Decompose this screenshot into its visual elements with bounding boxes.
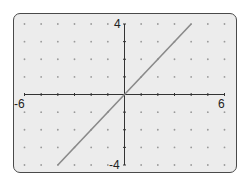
grid-dot (74, 58, 76, 60)
y-max-label: 4 (114, 18, 121, 30)
grid-dot (90, 76, 92, 78)
grid-dot (190, 129, 192, 131)
grid-dot (157, 129, 159, 131)
grid-dot (224, 164, 226, 166)
grid-dot (140, 129, 142, 131)
grid-dot (24, 164, 26, 166)
grid-dot (207, 23, 209, 25)
grid-dot (140, 23, 142, 25)
y-min-label: -4 (109, 159, 120, 171)
grid-dot (224, 111, 226, 113)
grid-dot (57, 111, 59, 113)
grid-dot (174, 58, 176, 60)
grid-dot (207, 58, 209, 60)
grid-dot (107, 23, 109, 25)
grid-dot (174, 23, 176, 25)
grid-dot (107, 76, 109, 78)
grid-dot (207, 111, 209, 113)
grid-dot (190, 111, 192, 113)
grid-dot (24, 146, 26, 148)
grid-dot (140, 164, 142, 166)
grid-dot (174, 111, 176, 113)
grid-dot (40, 23, 42, 25)
grid-dot (107, 58, 109, 60)
grid-dot (207, 41, 209, 43)
grid-dot (140, 58, 142, 60)
grid-dot (40, 58, 42, 60)
grid-dot (57, 58, 59, 60)
plot-area (0, 0, 250, 184)
grid-dot (157, 111, 159, 113)
grid-dot (40, 164, 42, 166)
grid-dot (190, 41, 192, 43)
grid-dot (74, 129, 76, 131)
grid-dot (207, 76, 209, 78)
grid-dot (190, 76, 192, 78)
grid-dot (224, 146, 226, 148)
grid-dot (157, 146, 159, 148)
grid-dot (174, 146, 176, 148)
x-max-label: 6 (218, 98, 225, 110)
grid-dot (207, 146, 209, 148)
grid-dot (157, 23, 159, 25)
grid-dot (90, 146, 92, 148)
grid-dot (174, 76, 176, 78)
grid-dot (57, 129, 59, 131)
grid-dot (224, 41, 226, 43)
grid-dot (40, 41, 42, 43)
grid-dot (157, 41, 159, 43)
grid-dot (74, 111, 76, 113)
grid-dot (90, 23, 92, 25)
grid-dot (74, 76, 76, 78)
grid-dot (174, 164, 176, 166)
grid-dot (90, 111, 92, 113)
grid-dot (140, 41, 142, 43)
grid-dot (140, 111, 142, 113)
grid-dot (90, 41, 92, 43)
grid-dot (157, 164, 159, 166)
grid-dot (57, 23, 59, 25)
grid-dot (40, 111, 42, 113)
grid-dot (40, 146, 42, 148)
grid-dot (107, 129, 109, 131)
grid-dot (224, 76, 226, 78)
grid-dot (190, 58, 192, 60)
grid-dot (57, 146, 59, 148)
grid-dot (224, 23, 226, 25)
grid-dot (74, 164, 76, 166)
grid-dot (224, 129, 226, 131)
grid-dot (57, 76, 59, 78)
grid-dot (40, 76, 42, 78)
grid-dot (24, 76, 26, 78)
x-min-label: -6 (14, 98, 25, 110)
grid-dot (40, 129, 42, 131)
grid-dot (90, 58, 92, 60)
grid-dot (74, 23, 76, 25)
grid-dot (207, 164, 209, 166)
grid-dot (140, 146, 142, 148)
grid-dot (24, 129, 26, 131)
grid-dot (207, 129, 209, 131)
grid-dot (190, 146, 192, 148)
grid-dot (74, 41, 76, 43)
grid-dot (57, 41, 59, 43)
grid-dot (224, 58, 226, 60)
grid-dot (190, 164, 192, 166)
grid-dot (157, 76, 159, 78)
grid-dot (24, 23, 26, 25)
grid-dot (107, 146, 109, 148)
grid-dot (174, 129, 176, 131)
grid-dot (24, 111, 26, 113)
grid-dot (24, 58, 26, 60)
grid-dot (90, 164, 92, 166)
grid-dot (107, 41, 109, 43)
grid-dot (24, 41, 26, 43)
